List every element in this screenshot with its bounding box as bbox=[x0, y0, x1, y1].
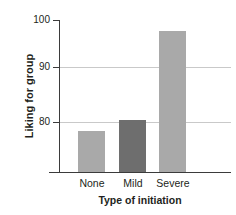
bar-mild bbox=[119, 120, 146, 173]
bar-none bbox=[78, 131, 105, 172]
y-tick-label-80: 80 bbox=[2, 117, 50, 127]
y-tick-label-80-wrap: 80 bbox=[0, 117, 50, 127]
x-tick-label-severe: Severe bbox=[143, 176, 203, 190]
y-tick-label-90: 90 bbox=[2, 62, 50, 72]
y-tick-label-100-wrap: 100 bbox=[0, 15, 50, 25]
y-tick-label-90-wrap: 90 bbox=[0, 62, 50, 72]
x-axis-line bbox=[49, 172, 231, 173]
y-axis-title: Liking for group bbox=[20, 20, 38, 172]
bar-chart: Liking for group 100 90 80 None Mild Sev… bbox=[0, 0, 236, 215]
plot-area bbox=[59, 20, 231, 172]
bar-severe bbox=[159, 31, 186, 172]
x-axis-title: Type of initiation bbox=[49, 193, 231, 207]
y-tick-label-100: 100 bbox=[2, 15, 50, 25]
